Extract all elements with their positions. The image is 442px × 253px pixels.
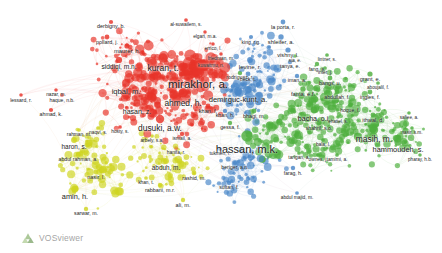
network-node[interactable]	[118, 103, 124, 109]
network-node[interactable]	[101, 36, 105, 40]
network-node[interactable]	[240, 49, 245, 54]
network-node[interactable]	[245, 110, 251, 116]
network-node[interactable]	[228, 176, 235, 183]
network-node[interactable]	[360, 129, 365, 134]
network-node[interactable]	[288, 60, 292, 64]
network-node[interactable]	[399, 120, 407, 128]
network-node[interactable]	[258, 70, 261, 73]
network-node[interactable]	[326, 161, 329, 164]
network-node[interactable]	[407, 111, 411, 115]
network-node[interactable]	[252, 118, 259, 125]
network-node[interactable]	[239, 177, 243, 181]
network-node[interactable]	[312, 153, 317, 158]
network-node[interactable]	[167, 112, 171, 116]
network-node[interactable]	[369, 132, 378, 141]
network-node[interactable]	[317, 117, 325, 125]
network-node[interactable]	[137, 31, 140, 34]
network-node[interactable]	[207, 121, 215, 129]
network-node[interactable]	[226, 112, 234, 120]
network-node[interactable]	[123, 114, 129, 120]
network-node[interactable]	[294, 92, 299, 97]
network-node[interactable]	[288, 100, 296, 108]
network-node[interactable]	[219, 159, 223, 163]
network-node[interactable]	[365, 135, 369, 139]
network-node[interactable]	[219, 62, 230, 73]
network-node[interactable]	[348, 164, 352, 168]
network-node[interactable]	[249, 35, 253, 39]
network-node[interactable]	[261, 170, 264, 173]
network-node[interactable]	[243, 77, 251, 85]
network-node[interactable]	[218, 147, 222, 151]
network-node[interactable]	[60, 93, 64, 97]
network-node[interactable]	[101, 132, 105, 136]
network-node[interactable]	[253, 138, 261, 146]
network-node[interactable]	[164, 110, 167, 113]
network-node[interactable]	[311, 168, 315, 172]
network-node[interactable]	[130, 106, 133, 109]
network-node[interactable]	[141, 137, 147, 143]
network-node[interactable]	[98, 89, 106, 97]
network-node[interactable]	[391, 140, 393, 142]
network-node[interactable]	[98, 175, 106, 183]
network-node[interactable]	[254, 92, 262, 100]
network-node[interactable]	[360, 140, 363, 143]
network-node[interactable]	[253, 48, 255, 50]
network-node[interactable]	[383, 149, 385, 151]
network-node[interactable]	[150, 73, 159, 82]
network-node[interactable]	[382, 135, 388, 141]
network-node[interactable]	[114, 126, 119, 131]
network-node[interactable]	[105, 96, 109, 100]
network-node[interactable]	[97, 132, 100, 135]
network-node[interactable]	[227, 98, 234, 105]
network-node[interactable]	[70, 161, 76, 167]
network-node[interactable]	[279, 140, 283, 144]
network-node[interactable]	[109, 20, 113, 24]
network-node[interactable]	[231, 187, 238, 194]
network-node[interactable]	[87, 178, 93, 184]
vosviewer-visualization[interactable]: mirakhor, a.kuran, t.ahmed, h.dusuki, a.…	[0, 0, 442, 253]
network-node[interactable]	[303, 114, 311, 122]
network-node[interactable]	[172, 118, 176, 122]
network-node[interactable]	[125, 106, 129, 110]
network-node[interactable]	[65, 151, 73, 159]
network-node[interactable]	[247, 47, 250, 50]
network-node[interactable]	[303, 123, 308, 128]
network-node[interactable]	[160, 142, 162, 144]
network-node[interactable]	[295, 146, 301, 152]
network-node[interactable]	[58, 163, 63, 168]
network-node[interactable]	[247, 188, 253, 194]
network-node[interactable]	[272, 74, 275, 77]
network-node[interactable]	[90, 140, 98, 148]
network-node[interactable]	[124, 43, 129, 48]
network-node[interactable]	[368, 90, 373, 95]
network-node[interactable]	[109, 176, 111, 178]
network-node[interactable]	[262, 124, 266, 128]
network-node[interactable]	[374, 141, 380, 147]
vosviewer-logo[interactable]: VOSviewer	[22, 232, 83, 244]
network-node[interactable]	[252, 127, 258, 133]
network-node[interactable]	[77, 128, 81, 132]
network-node[interactable]	[167, 50, 176, 59]
network-node[interactable]	[112, 156, 119, 163]
network-node[interactable]	[154, 134, 159, 139]
network-node[interactable]	[239, 66, 245, 72]
network-node[interactable]	[263, 62, 269, 68]
network-node[interactable]	[295, 191, 299, 195]
network-node[interactable]	[145, 166, 148, 169]
network-node[interactable]	[293, 155, 296, 158]
network-node[interactable]	[229, 60, 236, 67]
network-node[interactable]	[305, 143, 312, 150]
network-node[interactable]	[91, 37, 97, 43]
network-node[interactable]	[267, 32, 275, 40]
network-node[interactable]	[155, 158, 162, 165]
network-node[interactable]	[418, 153, 422, 157]
network-node[interactable]	[136, 177, 142, 183]
network-node[interactable]	[328, 101, 337, 110]
network-node[interactable]	[212, 184, 215, 187]
network-node[interactable]	[92, 161, 100, 169]
network-node[interactable]	[259, 132, 261, 134]
network-node[interactable]	[124, 73, 134, 83]
network-node[interactable]	[136, 160, 138, 162]
network-node[interactable]	[243, 86, 251, 94]
network-node[interactable]	[314, 85, 320, 91]
